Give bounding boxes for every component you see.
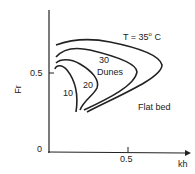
y-tick-zero-label: 0 bbox=[37, 145, 42, 154]
curve-30-label: 30 bbox=[99, 56, 109, 65]
y-tick-half-label: 0.5 bbox=[30, 69, 43, 78]
curve-20-label: 20 bbox=[83, 81, 93, 90]
flat-bed-region-label: Flat bed bbox=[138, 103, 171, 112]
dunes-region-label: Dunes bbox=[97, 68, 123, 77]
x-axis bbox=[48, 152, 185, 153]
chart-canvas bbox=[0, 0, 195, 174]
temp-unit: C bbox=[152, 32, 161, 42]
x-tick-half-label: 0.5 bbox=[120, 155, 133, 164]
temp-35-label: T = 35o C bbox=[123, 31, 161, 42]
curve-10-label: 10 bbox=[63, 89, 73, 98]
x-axis-arrow-icon bbox=[185, 150, 191, 156]
y-axis-label: Fr bbox=[14, 85, 23, 94]
x-axis-label: kh bbox=[178, 160, 188, 169]
temp-35-value: T = 35 bbox=[123, 32, 149, 42]
